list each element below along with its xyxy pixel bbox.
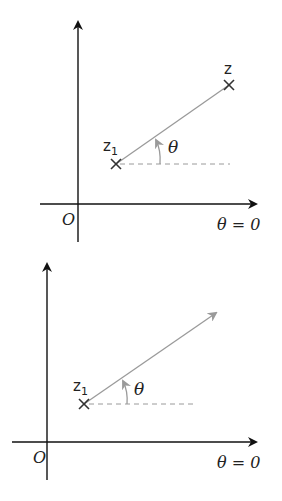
- bottom-diagram: O θ = 0 z1 θ: [12, 264, 260, 480]
- z1-cross-icon: [111, 159, 121, 169]
- diagram-canvas: O θ = 0 z z1 θ O θ = 0 z1 θ: [0, 0, 282, 501]
- top-diagram: O θ = 0 z z1 θ: [40, 22, 260, 242]
- ray-half-line: [84, 313, 216, 404]
- angle-arc-arrow: [123, 381, 127, 404]
- z1-label: z1: [103, 137, 118, 158]
- z-cross-icon: [224, 80, 234, 90]
- z1-label: z1: [73, 377, 88, 398]
- theta-label: θ: [168, 137, 178, 157]
- z1-subscript: 1: [111, 145, 118, 158]
- z1-cross-icon: [79, 399, 89, 409]
- origin-label: O: [62, 210, 75, 229]
- axis-theta-zero-label: θ = 0: [217, 215, 260, 234]
- origin-label: O: [33, 448, 46, 467]
- angle-arc-arrow: [156, 140, 160, 164]
- z1-subscript: 1: [81, 385, 88, 398]
- theta-label: θ: [134, 379, 144, 399]
- axis-theta-zero-label: θ = 0: [217, 453, 260, 472]
- z-label: z: [224, 60, 232, 78]
